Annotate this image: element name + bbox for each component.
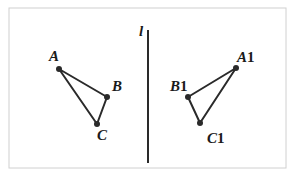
label-a: A bbox=[48, 48, 59, 64]
point-a1 bbox=[233, 65, 239, 71]
point-c1 bbox=[197, 120, 203, 126]
point-b bbox=[104, 94, 110, 100]
label-b1: B1 bbox=[169, 78, 188, 94]
label-c: C bbox=[97, 127, 108, 143]
triangle-abc bbox=[59, 69, 107, 124]
point-b1 bbox=[185, 94, 191, 100]
point-a bbox=[56, 66, 62, 72]
triangle-a1b1c1 bbox=[188, 68, 236, 123]
label-b: B bbox=[111, 78, 122, 94]
axis-label-l: l bbox=[139, 23, 144, 39]
reflection-diagram: l ABCA1B1C1 bbox=[0, 0, 296, 174]
label-c1: C1 bbox=[207, 130, 225, 146]
label-a1: A1 bbox=[236, 49, 255, 65]
